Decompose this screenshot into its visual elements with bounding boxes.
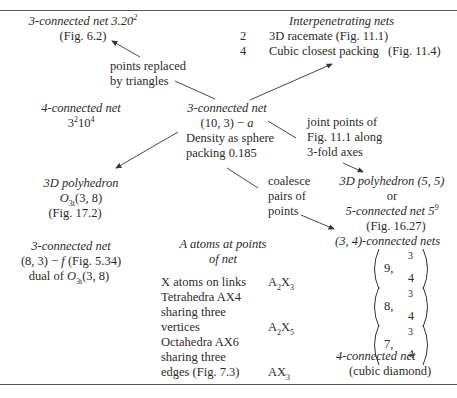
arrow-to-interpenetrating bbox=[250, 64, 332, 100]
replaced-label-line2: by triangles bbox=[110, 74, 169, 89]
four-connected-net-label: 4-connected net bbox=[336, 349, 415, 364]
center-density-line2: packing 0.185 bbox=[186, 146, 257, 161]
replaced-label-line1: points replaced bbox=[110, 59, 186, 74]
a-atoms-title-line1: A atoms at points bbox=[158, 237, 288, 252]
a-atoms-desc: sharing three bbox=[161, 305, 226, 320]
arrow-coalesce-to-34 bbox=[301, 215, 334, 229]
interpenetrating-row-text: Cubic closest packing (Fig. 11.4) bbox=[269, 44, 441, 59]
polyhedron-left-title: 3D polyhedron bbox=[16, 176, 146, 191]
coalesce-label-line1: coalesce bbox=[268, 174, 310, 189]
line-replaced-to-center bbox=[175, 81, 215, 99]
a-atoms-desc: vertices bbox=[161, 320, 200, 335]
a-atoms-title-line2: of net bbox=[158, 252, 288, 267]
joint-label-line2: Fig. 11.1 along bbox=[307, 130, 382, 145]
formula-ax3: AX3 bbox=[268, 365, 290, 380]
net-3-20-fig: (Fig. 6.2) bbox=[8, 29, 158, 44]
arrow-joint-to-polyhedron bbox=[343, 163, 363, 172]
interpenetrating-title: Interpenetrating nets bbox=[289, 14, 394, 29]
coalesce-label-line3: points bbox=[268, 204, 299, 219]
interpenetrating-row-text: 3D racemate (Fig. 11.1) bbox=[269, 29, 388, 44]
a-atoms-desc: Tetrahedra AX4 bbox=[161, 290, 241, 305]
polyhedron-left-fig: (Fig. 17.2) bbox=[10, 206, 140, 221]
coalesce-label-line2: pairs of bbox=[268, 189, 306, 204]
line-center-to-coalesce bbox=[227, 168, 258, 188]
polyhedron-right-fig: (Fig. 16.27) bbox=[336, 219, 456, 234]
interpenetrating-row-n: 2 bbox=[240, 29, 246, 44]
formula-a2x5: A2X5 bbox=[268, 320, 294, 335]
arrow-to-polyhedron-left bbox=[116, 132, 178, 168]
joint-label-line1: joint points of bbox=[307, 115, 377, 130]
polyhedron-right-or: or bbox=[332, 189, 452, 204]
interpenetrating-row-n: 4 bbox=[240, 44, 246, 59]
polyhedron-right-title: 3D polyhedron (5, 5) bbox=[332, 174, 452, 189]
cubic-diamond-label: (cubic diamond) bbox=[349, 364, 431, 379]
center-net-symbol: (10, 3) − a bbox=[172, 116, 282, 131]
four-connected-title: 4-connected net bbox=[16, 101, 146, 116]
net-8-3-symbol: (8, 3) − f (Fig. 5.34) bbox=[0, 254, 142, 269]
net-8-3-title: 3-connected net bbox=[6, 239, 136, 254]
net-8-3-dual: dual of O3t(3, 8) bbox=[4, 269, 134, 284]
four-connected-symbol: 32104 bbox=[16, 116, 146, 131]
polyhedron-left-symbol: O3t(3, 8) bbox=[16, 191, 146, 206]
center-density-line1: Density as sphere bbox=[186, 131, 274, 146]
joint-label-line3: 3-fold axes bbox=[307, 145, 363, 160]
a-atoms-desc: edges (Fig. 7.3) bbox=[161, 365, 239, 380]
a-atoms-desc: Octahedra AX6 bbox=[161, 335, 239, 350]
five-connected-net: 5-connected net 59 bbox=[332, 204, 452, 219]
a-atoms-desc: X atoms on links bbox=[161, 275, 246, 290]
a-atoms-desc: sharing three bbox=[161, 350, 226, 365]
center-title: 3-connected net bbox=[172, 101, 282, 116]
net-3-20-title: 3-connected net 3.202 bbox=[8, 14, 158, 29]
formula-a2x3: A2X3 bbox=[268, 275, 294, 290]
